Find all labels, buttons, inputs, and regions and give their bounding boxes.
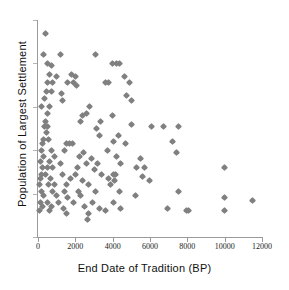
y-axis-tick (33, 237, 37, 238)
x-axis-tick-label: 6000 (142, 242, 158, 252)
x-axis-tick-label: 4000 (105, 242, 121, 252)
x-axis-tick-label: 10000 (215, 242, 235, 252)
y-axis-tick (33, 150, 37, 151)
x-axis-title: End Date of Tradition (BP) (0, 262, 289, 274)
y-axis-tick (33, 20, 37, 21)
x-axis-tick-label: 12000 (252, 242, 272, 252)
x-axis-tick-label: 2000 (67, 242, 83, 252)
x-axis-tick-label: 8000 (179, 242, 195, 252)
y-axis-tick (33, 63, 37, 64)
scatter-plot-figure: 020004000600080001000012000 End Date of … (0, 0, 289, 290)
y-axis-tick (33, 194, 37, 195)
y-axis-tick (33, 107, 37, 108)
y-axis-title: Population of Largest Settlement (16, 14, 28, 234)
x-axis-tick-label: 0 (36, 242, 40, 252)
y-axis-line (37, 20, 38, 238)
